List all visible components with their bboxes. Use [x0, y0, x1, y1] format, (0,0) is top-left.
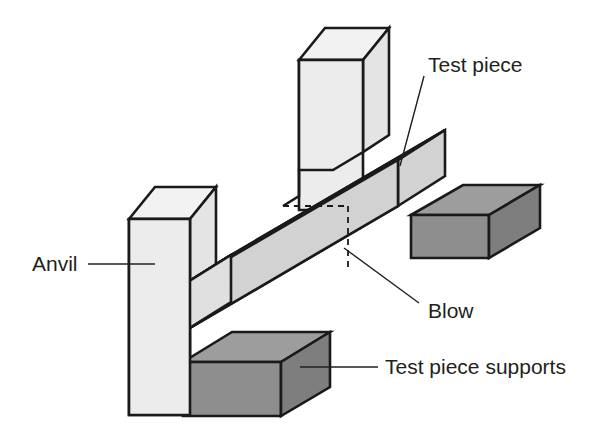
charpy-test-diagram: Test piece Anvil Blow Test piece support… — [0, 0, 616, 435]
part-anvil-rear-overlay — [299, 60, 363, 170]
anvil-front-front-face-overlay — [129, 219, 190, 415]
label-test-piece: Test piece — [428, 53, 523, 76]
part-support-rear — [411, 185, 540, 258]
leader-blow — [344, 248, 419, 303]
diagram-canvas: Test piece Anvil Blow Test piece support… — [0, 0, 616, 435]
support-rear-front-face — [411, 215, 489, 258]
label-test-piece-supports: Test piece supports — [385, 355, 566, 378]
anvil-rear-front-face-overlay — [299, 60, 363, 170]
anvil-rear-notch-step — [283, 170, 299, 206]
anvil-rear-step-edge — [283, 170, 299, 206]
beam-far-end-face — [398, 130, 445, 206]
part-anvil-front-overlay — [129, 219, 190, 415]
label-blow: Blow — [428, 299, 474, 322]
label-anvil: Anvil — [32, 252, 78, 275]
support-front-front-face — [183, 362, 281, 416]
part-support-front — [183, 332, 330, 416]
